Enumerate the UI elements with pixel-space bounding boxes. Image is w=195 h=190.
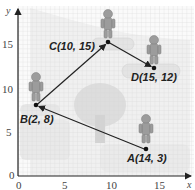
- x-axis-name: x: [186, 179, 192, 190]
- y-tick-15: 15: [2, 38, 14, 50]
- y-tick-5: 5: [6, 126, 12, 138]
- x-tick-10: 10: [106, 179, 118, 190]
- point-a: [144, 147, 149, 152]
- point-b: [34, 103, 39, 108]
- y-tick-10: 10: [2, 83, 14, 95]
- label-point-c: C(10, 15): [49, 40, 95, 52]
- y-axis-name: y: [5, 5, 11, 16]
- point-c: [106, 40, 111, 45]
- coordinate-plane: y x 15 10 5 0 0 5 10 15: [0, 0, 195, 190]
- label-point-a: A(14, 3): [126, 152, 167, 164]
- x-tick-5: 5: [62, 179, 68, 190]
- label-point-b: B(2, 8): [20, 113, 54, 125]
- label-point-d: D(15, 12): [131, 71, 177, 83]
- x-tick-0: 0: [16, 179, 22, 190]
- x-tick-15: 15: [154, 179, 166, 190]
- y-tick-0: 0: [9, 169, 15, 181]
- point-d: [152, 66, 157, 71]
